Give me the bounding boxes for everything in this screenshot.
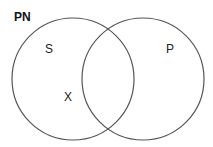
venn-circles <box>0 0 213 147</box>
set-label-s: S <box>45 43 53 55</box>
circle-s <box>12 18 134 140</box>
circle-p <box>82 18 204 140</box>
set-label-p: P <box>166 43 174 55</box>
venn-diagram: PN S P X <box>0 0 213 147</box>
diagram-title: PN <box>14 11 31 23</box>
mark-x: X <box>64 91 72 103</box>
